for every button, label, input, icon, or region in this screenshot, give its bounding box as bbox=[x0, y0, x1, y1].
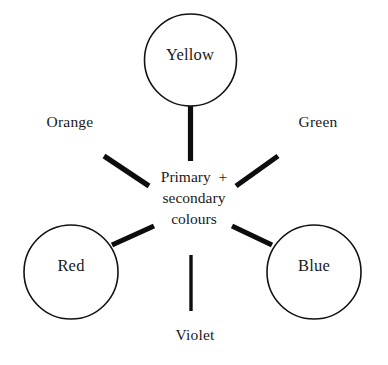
node-label-blue: Blue bbox=[266, 257, 362, 275]
node-label-red: Red bbox=[24, 257, 118, 275]
outer-label-violet: Violet bbox=[145, 326, 245, 344]
outer-label-green: Green bbox=[268, 113, 368, 131]
center-caption: Primary + secondary colours bbox=[126, 166, 262, 229]
center-caption-line-1: Primary + bbox=[126, 166, 262, 187]
center-caption-line-2: secondary bbox=[126, 187, 262, 208]
colour-wheel-diagram: Yellow Red Blue Orange Green Violet Prim… bbox=[0, 0, 388, 365]
center-caption-line-3: colours bbox=[126, 208, 262, 229]
node-label-yellow: Yellow bbox=[140, 46, 240, 64]
outer-label-orange: Orange bbox=[20, 113, 120, 131]
